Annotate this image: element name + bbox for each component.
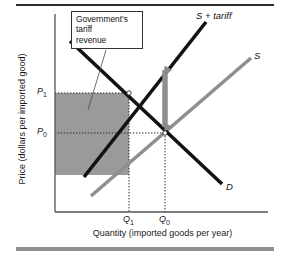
supply-plus-tariff-label: S + tariff <box>196 10 232 21</box>
y-tick-p1: P1 <box>37 86 47 98</box>
callout-line-1: Government's <box>76 14 139 24</box>
equilibrium-point-tariff <box>127 91 131 95</box>
callout-line-2: tariff <box>76 24 139 34</box>
callout-line-3: revenue <box>76 35 139 45</box>
x-tick-q1: Q1 <box>123 214 134 226</box>
demand-label: D <box>226 181 233 192</box>
y-tick-p0-sub: 0 <box>43 131 47 138</box>
government-tariff-revenue-callout: Government's tariff revenue <box>71 11 143 49</box>
y-tick-p1-sub: 1 <box>43 91 47 98</box>
x-tick-q0-text: Q <box>159 214 166 224</box>
tariff-diagram-figure: Government's tariff revenue S + tariff S… <box>0 0 286 260</box>
supply-label: S <box>254 50 260 61</box>
y-axis-label: Price (dollars per imported good) <box>17 29 27 209</box>
equilibrium-point-free-trade <box>163 131 167 135</box>
y-tick-p0: P0 <box>37 126 47 138</box>
x-axis-label: Quantity (imported goods per year) <box>55 228 270 238</box>
x-tick-q1-text: Q <box>123 214 130 224</box>
x-tick-q0: Q0 <box>159 214 170 226</box>
x-tick-q1-sub: 1 <box>130 219 134 226</box>
x-tick-q0-sub: 0 <box>166 219 170 226</box>
